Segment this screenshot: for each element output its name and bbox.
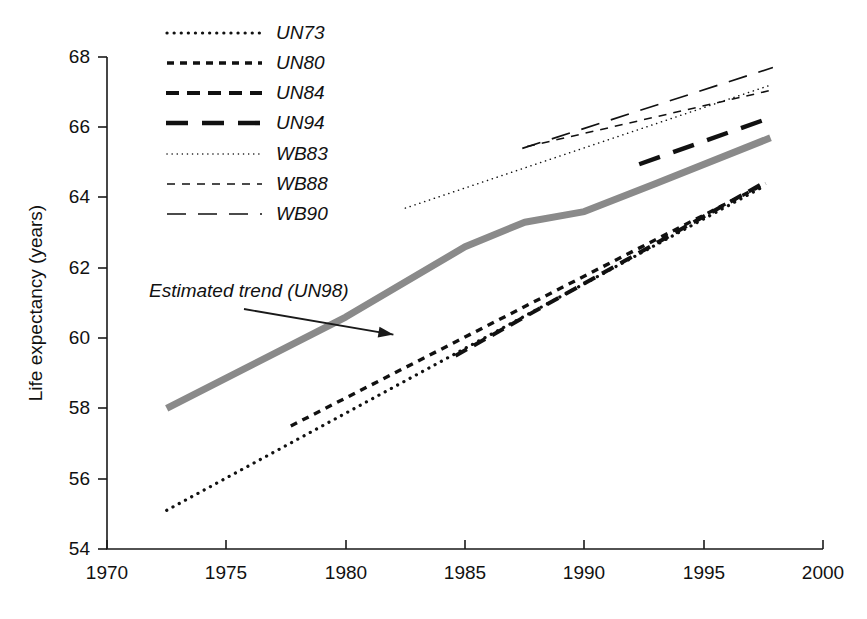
y-axis-ticks [98,57,107,549]
legend-label-un94: UN94 [276,112,325,134]
series-line-un73 [167,185,766,510]
y-tick-label-60: 60 [50,327,90,349]
legend-samples [166,33,262,214]
x-axis-ticks [107,540,823,549]
series-line-wb88 [527,90,770,146]
x-tick-label-1990: 1990 [549,562,619,584]
legend-label-un73: UN73 [276,22,325,44]
x-tick-label-1975: 1975 [191,562,261,584]
y-tick-label-56: 56 [50,468,90,490]
x-tick-label-1970: 1970 [72,562,142,584]
legend-label-un80: UN80 [276,52,325,74]
y-tick-label-66: 66 [50,116,90,138]
series-line-wb83 [405,85,770,208]
legend-label-wb83: WB83 [276,143,328,165]
axis-spines [107,57,823,549]
y-tick-label-68: 68 [50,46,90,68]
legend-label-wb88: WB88 [276,173,328,195]
y-tick-label-58: 58 [50,397,90,419]
chart-figure: Life expectancy (years) 68 66 64 62 60 5… [0,0,867,619]
legend-label-wb90: WB90 [276,203,328,225]
series-line-estimated-trend-un98 [167,138,771,409]
series-line-wb90 [522,68,773,149]
y-tick-label-54: 54 [50,538,90,560]
annotation-estimated-trend: Estimated trend (UN98) [149,280,349,302]
x-tick-label-1985: 1985 [430,562,500,584]
chart-plot-area [0,0,867,619]
x-tick-label-2000: 2000 [788,562,858,584]
x-tick-label-1995: 1995 [669,562,739,584]
legend-label-un84: UN84 [276,82,325,104]
x-tick-label-1980: 1980 [311,562,381,584]
series-line-un84 [456,182,766,356]
series-line-un94 [639,119,768,165]
y-tick-label-64: 64 [50,186,90,208]
y-tick-label-62: 62 [50,257,90,279]
y-axis-title: Life expectancy (years) [25,133,47,473]
